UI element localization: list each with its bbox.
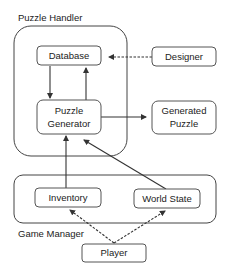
world-state-label: World State bbox=[142, 193, 191, 204]
player-label: Player bbox=[101, 247, 128, 258]
designer-label: Designer bbox=[165, 51, 203, 62]
node-database: Database bbox=[37, 46, 101, 65]
generated-puzzle-label-line1: Generated bbox=[162, 105, 207, 116]
node-puzzle-generator: Puzzle Generator bbox=[37, 100, 101, 134]
inventory-label: Inventory bbox=[48, 192, 87, 203]
node-designer: Designer bbox=[152, 47, 216, 66]
generated-puzzle-label-line2: Puzzle bbox=[170, 118, 199, 129]
database-label: Database bbox=[49, 50, 90, 61]
node-inventory: Inventory bbox=[35, 188, 101, 207]
architecture-diagram: Puzzle Handler Game Manager Database Des… bbox=[0, 0, 229, 276]
puzzle-handler-label: Puzzle Handler bbox=[18, 12, 82, 23]
puzzle-generator-label-line2: Generator bbox=[48, 118, 91, 129]
node-player: Player bbox=[82, 244, 146, 262]
node-world-state: World State bbox=[134, 189, 200, 208]
edge-player-to-worldstate bbox=[114, 211, 165, 243]
game-manager-label: Game Manager bbox=[18, 228, 84, 239]
puzzle-generator-label-line1: Puzzle bbox=[55, 105, 84, 116]
node-generated-puzzle: Generated Puzzle bbox=[152, 101, 216, 134]
